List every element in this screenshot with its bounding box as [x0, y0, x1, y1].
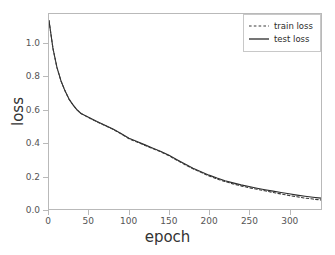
legend-box: train loss test loss — [243, 14, 321, 52]
x-tick-label: 100 — [120, 216, 137, 226]
x-tick-mark — [290, 210, 291, 215]
y-tick-mark — [43, 110, 48, 111]
x-tick-label: 150 — [160, 216, 177, 226]
x-tick-mark — [88, 210, 89, 215]
legend-item-train-loss: train loss — [249, 20, 315, 32]
legend-item-test-loss: test loss — [249, 33, 315, 45]
y-tick-mark — [43, 177, 48, 178]
y-tick-mark — [43, 143, 48, 144]
x-tick-mark — [249, 210, 250, 215]
x-tick-label: 200 — [201, 216, 218, 226]
y-tick-mark — [43, 76, 48, 77]
x-tick-label: 250 — [241, 216, 258, 226]
x-tick-mark — [169, 210, 170, 215]
x-tick-mark — [48, 210, 49, 215]
dashed-line-icon — [249, 21, 269, 31]
solid-line-icon — [249, 34, 269, 44]
x-tick-label: 50 — [83, 216, 94, 226]
x-axis-label: epoch — [0, 228, 335, 246]
y-axis-label: loss — [10, 13, 26, 210]
legend-label-test-loss: test loss — [274, 34, 309, 44]
x-tick-mark — [129, 210, 130, 215]
x-tick-mark — [209, 210, 210, 215]
y-tick-mark — [43, 43, 48, 44]
loss-curve-figure: 0.00.20.40.60.81.0 050100150200250300 ep… — [0, 0, 335, 255]
legend-label-train-loss: train loss — [274, 21, 313, 31]
x-tick-label: 0 — [45, 216, 51, 226]
x-tick-label: 300 — [281, 216, 298, 226]
